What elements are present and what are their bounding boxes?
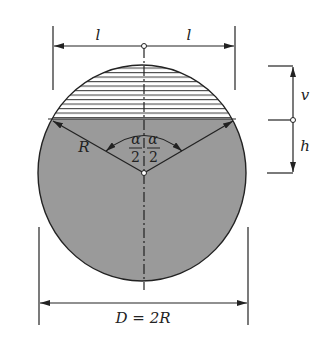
angle-two-right: 2 [149,149,158,165]
half-width-label-left: l [96,26,101,44]
h-label: h [300,137,310,155]
radius-label: R [77,138,89,156]
vessel-cross-section-diagram: α 2 α 2 R l l v h D = 2R [0,0,318,341]
v-label: v [301,86,310,104]
top-midpoint [142,44,147,49]
half-width-label-right: l [187,26,192,44]
angle-alpha-left: α [131,131,141,147]
submerged-segment [30,119,260,289]
angle-two-left: 2 [131,149,140,165]
right-midpoint [291,118,296,123]
diameter-label: D = 2R [115,309,171,327]
hatched-segment [30,60,260,119]
center-point [142,171,147,176]
angle-alpha-right: α [148,131,158,147]
